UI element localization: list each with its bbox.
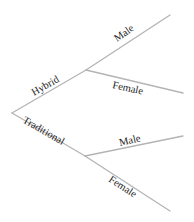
- label-traditional-female: Female: [107, 173, 139, 199]
- tree-diagram: Hybrid Traditional Male Female Male Fema…: [0, 0, 194, 222]
- tree-diagram-svg: Hybrid Traditional Male Female Male Fema…: [0, 0, 194, 222]
- label-hybrid-male: Male: [112, 22, 136, 44]
- label-traditional: Traditional: [21, 114, 67, 147]
- label-hybrid-female: Female: [112, 79, 145, 96]
